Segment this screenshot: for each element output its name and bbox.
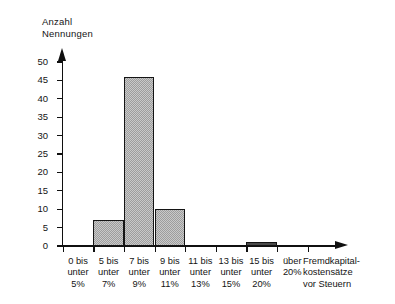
bar [93, 220, 124, 246]
y-axis-tick-label: 40 [26, 94, 48, 104]
y-axis-tick [57, 80, 63, 81]
histogram-chart: Anzahl Nennungen 05101520253035404550 0 … [0, 0, 395, 304]
x-axis-title-line-3: vor Steuern [303, 279, 360, 290]
y-axis-tick [57, 227, 63, 228]
y-axis-tick [57, 190, 63, 191]
x-axis-arrow-icon [335, 241, 348, 249]
x-axis-title-line-2: kostensätze [303, 267, 360, 278]
bar [246, 242, 277, 246]
x-axis-category-label-line: 20% [238, 279, 285, 290]
x-axis-tick [63, 246, 64, 252]
bar [124, 77, 155, 246]
y-axis-tick-label: 35 [26, 112, 48, 122]
y-axis-title-line-2: Nennungen [42, 28, 93, 40]
y-axis-tick [57, 135, 63, 136]
x-axis-tick [155, 246, 156, 252]
y-axis-tick-label: 0 [26, 241, 48, 251]
x-axis-tick [277, 246, 278, 252]
x-axis-tick [185, 246, 186, 252]
y-axis-title-line-1: Anzahl [42, 16, 93, 28]
y-axis-tick [57, 117, 63, 118]
y-axis-title: Anzahl Nennungen [42, 16, 93, 39]
y-axis-tick-label: 20 [26, 167, 48, 177]
y-axis-tick [57, 61, 63, 62]
y-axis-tick [57, 153, 63, 154]
x-axis-tick [308, 246, 309, 252]
y-axis-tick-label: 45 [26, 75, 48, 85]
y-axis-tick [57, 172, 63, 173]
y-axis-tick-label: 30 [26, 131, 48, 141]
x-axis-tick [216, 246, 217, 252]
x-axis-tick [93, 246, 94, 252]
y-axis-tick-label: 5 [26, 223, 48, 233]
x-axis-tick [246, 246, 247, 252]
x-axis-title-line-1: Fremdkapital- [303, 256, 360, 267]
y-axis-tick-label: 15 [26, 186, 48, 196]
y-axis-tick-label: 25 [26, 149, 48, 159]
y-axis-tick-label: 10 [26, 204, 48, 214]
y-axis-arrow-icon [58, 48, 66, 61]
x-axis-title: Fremdkapital- kostensätze vor Steuern [303, 256, 360, 290]
y-axis-tick [57, 98, 63, 99]
y-axis-tick-label: 50 [26, 57, 48, 67]
y-axis-tick [57, 209, 63, 210]
bar [155, 209, 186, 246]
x-axis-tick [124, 246, 125, 252]
